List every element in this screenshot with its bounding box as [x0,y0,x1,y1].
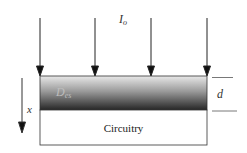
down-arrow-icon [37,18,44,76]
down-arrow-icon [148,18,155,76]
down-arrow-icon [92,18,99,76]
incident-intensity-label: Io [119,13,127,27]
depth-axis-label: x [27,104,32,115]
down-arrow-icon [204,18,211,76]
thickness-label: d [217,88,223,100]
layer-subscript: es [65,91,72,100]
incident-intensity-subscript: o [123,18,127,27]
layer-label: Des [56,86,71,100]
layer-symbol: D [56,85,65,99]
depth-arrow-icon [19,78,26,133]
circuitry-label: Circuitry [40,122,207,134]
thickness-marker [212,78,237,112]
